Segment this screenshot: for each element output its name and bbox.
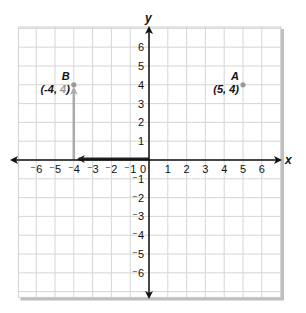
point-marker [71, 82, 76, 87]
y-tick-label: 3 [138, 98, 144, 110]
x-tick-label: 4 [221, 163, 227, 175]
point-b: B(-4, 4) [40, 70, 76, 95]
x-axis-label: x [284, 153, 293, 167]
y-tick-label: 1 [138, 135, 144, 147]
y-tick-label: ⁻3 [132, 210, 144, 222]
point-a: A(5, 4) [213, 70, 245, 95]
y-tick-label: 5 [138, 60, 144, 72]
point-name-label: B [62, 70, 70, 82]
coordinate-plane: ⁻6⁻5⁻4⁻3⁻2⁻10123456 654321⁻1⁻2⁻3⁻4⁻5⁻6 A… [0, 0, 306, 313]
coord-highlight: 4 [59, 83, 66, 95]
x-tick-label: ⁻2 [105, 163, 117, 175]
x-tick-labels: ⁻6⁻5⁻4⁻3⁻2⁻10123456 [30, 163, 265, 175]
point-coordinate-label: (-4, 4) [40, 83, 70, 95]
x-tick-label: 1 [165, 163, 171, 175]
x-tick-label: ⁻4 [68, 163, 80, 175]
x-tick-label: 5 [240, 163, 246, 175]
point-coordinate-label: (5, 4) [213, 83, 239, 95]
x-tick-label: ⁻5 [49, 163, 61, 175]
y-tick-label: 2 [138, 116, 144, 128]
y-tick-label: 6 [138, 41, 144, 53]
y-tick-label: ⁻6 [132, 267, 144, 279]
y-tick-label: 4 [138, 79, 144, 91]
x-tick-label: 2 [184, 163, 190, 175]
y-tick-label: ⁻5 [132, 248, 144, 260]
x-tick-label: 6 [259, 163, 265, 175]
y-tick-label: ⁻2 [132, 192, 144, 204]
y-tick-label: ⁻4 [132, 229, 144, 241]
y-axis-label: y [144, 11, 153, 25]
coord-prefix: (-4, [40, 83, 60, 95]
x-tick-label: ⁻6 [30, 163, 42, 175]
x-tick-label: 3 [202, 163, 208, 175]
x-tick-label: ⁻3 [87, 163, 99, 175]
y-tick-label: ⁻1 [132, 173, 144, 185]
point-name-label: A [230, 70, 239, 82]
point-marker [240, 82, 245, 87]
coord-suffix: ) [65, 83, 70, 95]
